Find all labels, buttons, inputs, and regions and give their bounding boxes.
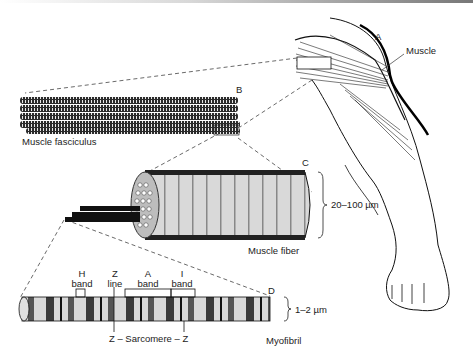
- myofibril-illustration: [19, 287, 291, 332]
- z-line-label: Z line: [104, 269, 126, 288]
- h-band-label: H band: [68, 269, 96, 288]
- myofibril-label: Myofibril: [266, 336, 301, 346]
- panel-letter-c: C: [302, 158, 309, 168]
- fiber-size-label: 20–100 µm: [331, 200, 379, 210]
- fiber-illustration: [65, 170, 327, 240]
- arm-illustration: [295, 18, 449, 311]
- muscle-label: Muscle: [406, 46, 436, 56]
- a-band-label: A band: [134, 269, 162, 288]
- myofibril-size-label: 1–2 µm: [295, 305, 327, 315]
- fiber-label: Muscle fiber: [248, 246, 299, 256]
- fiber-size-brace: [318, 172, 327, 238]
- i-band-label: I band: [168, 269, 196, 288]
- sarcomere-label: Z – Sarcomere – Z: [109, 334, 188, 344]
- z-line-word: line: [104, 279, 126, 289]
- panel-letter-a: A: [375, 32, 381, 42]
- fasciculus-illustration: [20, 97, 240, 135]
- muscle-inset-box: [297, 57, 331, 69]
- myofibril-size-brace: [284, 297, 291, 321]
- a-band-word: band: [134, 279, 162, 289]
- h-band-word: band: [68, 279, 96, 289]
- fasciculus-label: Muscle fasciculus: [22, 137, 96, 147]
- i-band-word: band: [168, 279, 196, 289]
- diagram-artwork: [0, 0, 473, 359]
- panel-letter-b: B: [236, 85, 242, 95]
- panel-letter-d: D: [268, 286, 275, 296]
